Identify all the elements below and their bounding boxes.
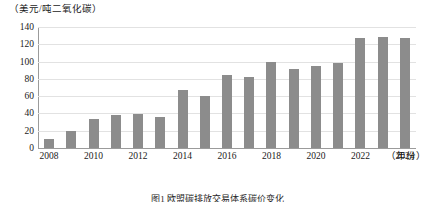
gridline [38, 148, 416, 149]
x-axis-tick-label: 2018 [262, 150, 281, 162]
y-axis-tick-label: 120 [4, 39, 34, 49]
y-axis-tick-labels: 020406080100120140 [0, 27, 34, 148]
bar [200, 96, 210, 148]
bar [66, 131, 76, 148]
bar [400, 38, 410, 148]
y-axis-tick-label: 0 [4, 143, 34, 153]
bar [178, 90, 188, 148]
bar [89, 119, 99, 148]
y-axis-tick-label: 40 [4, 108, 34, 118]
bar-chart-figure: （美元/吨二氧化碳） 020406080100120140 2008201020… [0, 0, 435, 202]
x-axis-unit-label: （年份） [386, 150, 426, 162]
x-axis-tick-label: 2008 [40, 150, 59, 162]
bar [155, 117, 165, 148]
y-axis-tick-label: 140 [4, 22, 34, 32]
y-axis-tick-label: 20 [4, 126, 34, 136]
x-axis-tick-label: 2014 [173, 150, 192, 162]
x-axis-tick-label: 2020 [306, 150, 325, 162]
bar [378, 37, 388, 148]
bar-series [38, 27, 416, 148]
bar [222, 75, 232, 148]
bar [44, 139, 54, 149]
x-axis-tick-label: 2010 [84, 150, 103, 162]
bar [111, 115, 121, 148]
x-axis-tick-label: 2012 [129, 150, 148, 162]
bar [266, 62, 276, 148]
y-axis-unit-label: （美元/吨二氧化碳） [9, 3, 102, 15]
bar [133, 114, 143, 148]
x-axis-tick-label: 2022 [351, 150, 370, 162]
bar [355, 38, 365, 148]
bar [333, 63, 343, 148]
y-axis-tick-label: 60 [4, 91, 34, 101]
y-axis-tick-label: 80 [4, 74, 34, 84]
bar [289, 69, 299, 149]
figure-caption: 图1 欧盟碳排放交易体系碳价变化 [0, 193, 435, 202]
bar [244, 77, 254, 148]
plot-area [38, 27, 416, 148]
y-axis-tick-label: 100 [4, 57, 34, 67]
bar [311, 66, 321, 148]
x-axis-tick-label: 2016 [218, 150, 237, 162]
x-axis-tick-labels: 200820102012201420162018202020222024 [38, 150, 416, 164]
